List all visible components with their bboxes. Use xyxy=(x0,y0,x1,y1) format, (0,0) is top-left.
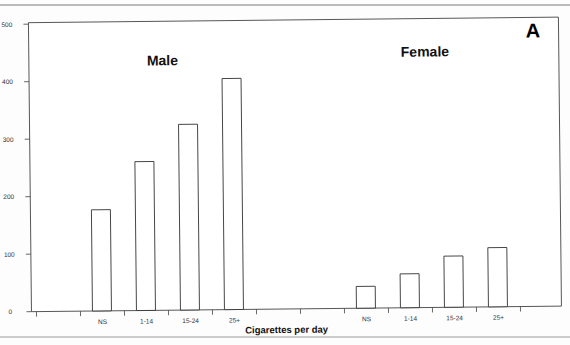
y-tick-300: 300 xyxy=(3,136,14,143)
bar-male-25plus xyxy=(222,78,243,309)
bar-female-15-24 xyxy=(444,256,464,307)
bar-female-1-14 xyxy=(400,274,419,308)
bar-male-1-14 xyxy=(135,161,156,310)
plot-area: 0 100 200 300 400 500 xyxy=(1,15,561,338)
group-label-male: Male xyxy=(147,52,179,68)
y-tick-400: 400 xyxy=(2,78,13,85)
y-tick-500: 500 xyxy=(1,21,12,28)
bar-female-25plus xyxy=(488,247,508,306)
y-tick-0: 0 xyxy=(8,308,12,315)
bar-male-15-24 xyxy=(179,124,200,310)
x-axis-title: Cigarettes per day xyxy=(245,324,329,336)
cat-female-ns: NS xyxy=(362,315,372,322)
cat-female-1-14: 1-14 xyxy=(404,315,417,322)
y-axis: 0 100 200 300 400 500 xyxy=(1,21,31,315)
y-tick-100: 100 xyxy=(4,251,15,258)
cat-male-1-14: 1-14 xyxy=(140,317,153,324)
bar-male-ns xyxy=(91,210,111,311)
bar-chart: 0 100 200 300 400 500 xyxy=(0,0,570,345)
cat-male-25plus: 25+ xyxy=(229,316,240,323)
y-tick-200: 200 xyxy=(3,193,14,200)
cat-male-ns: NS xyxy=(98,318,108,325)
panel-label: A xyxy=(525,19,540,41)
cat-female-25plus: 25+ xyxy=(493,314,504,321)
bar-female-ns xyxy=(356,286,375,308)
group-label-female: Female xyxy=(401,43,450,60)
cat-female-15-24: 15-24 xyxy=(446,314,463,321)
cat-male-15-24: 15-24 xyxy=(182,317,199,324)
